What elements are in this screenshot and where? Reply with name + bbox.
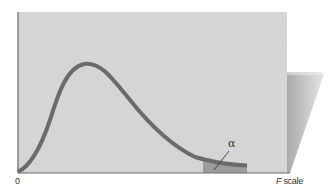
x-axis-label: F scale <box>276 177 303 186</box>
f-distribution-chart <box>0 0 330 190</box>
panel-shadow-wedge <box>287 74 324 173</box>
x-axis-label-scale: scale <box>281 176 303 186</box>
alpha-label: α <box>228 138 235 149</box>
origin-label: 0 <box>15 177 20 186</box>
panel-shadow-top <box>287 72 324 75</box>
